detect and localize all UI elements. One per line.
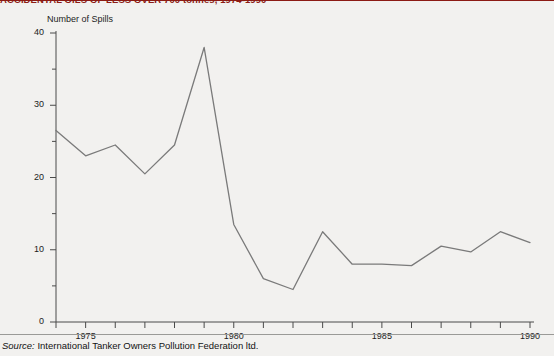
source-note: Source: International Tanker Owners Poll… [2, 340, 258, 351]
bottom-rule [0, 334, 554, 335]
series-line-number-of-spills [56, 47, 530, 289]
x-tick-label: 1990 [513, 331, 547, 341]
y-tick-label: 20 [20, 172, 44, 182]
y-tick-label: 40 [20, 27, 44, 37]
y-tick-label: 30 [20, 99, 44, 109]
source-keyword: Source: [2, 340, 35, 351]
source-text: International Tanker Owners Pollution Fe… [35, 340, 259, 351]
y-tick-label: 10 [20, 244, 44, 254]
chart-svg [0, 0, 554, 356]
x-tick-label: 1985 [365, 331, 399, 341]
y-tick-label: 0 [20, 316, 44, 326]
line-chart-plot: 0102030401975198019851990 [0, 0, 554, 356]
